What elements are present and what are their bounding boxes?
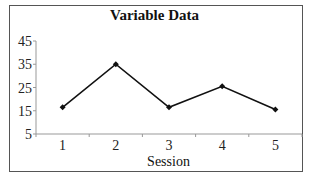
y-tick-label: 35 [18, 57, 32, 72]
series-line [63, 64, 276, 109]
data-series [60, 61, 279, 112]
x-axis-label: Session [0, 154, 309, 170]
y-tick-label: 15 [18, 104, 32, 119]
x-tick-label: 2 [112, 138, 119, 153]
x-tick-label: 1 [59, 138, 66, 153]
axes: 51525354512345 [18, 34, 302, 153]
y-tick-label: 45 [18, 34, 32, 49]
y-tick-label: 25 [18, 81, 32, 96]
x-tick-label: 3 [166, 138, 173, 153]
chart-plot-area: 51525354512345 [0, 0, 309, 177]
diamond-marker-icon [272, 107, 278, 113]
x-tick-label: 5 [272, 138, 279, 153]
diamond-marker-icon [219, 83, 225, 89]
y-tick-label: 5 [25, 127, 32, 142]
x-tick-label: 4 [219, 138, 226, 153]
